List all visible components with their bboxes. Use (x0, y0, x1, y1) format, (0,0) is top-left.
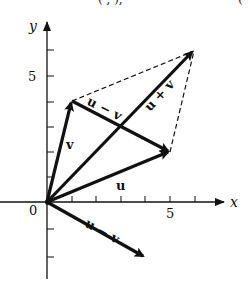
label-u: u (116, 178, 125, 193)
origin-label: 0 (29, 203, 37, 218)
x-axis-label: x (230, 194, 238, 210)
x-ticks (72, 196, 195, 202)
label-u-minus-v: u − v (83, 216, 123, 247)
axes: x y 0 5 5 (0, 18, 238, 279)
y-axis-label: y (28, 18, 38, 34)
dashed-edge-u-to-sum (170, 51, 194, 152)
vector-diagram: x y 0 5 5 u v u + v u − v u − v (0, 0, 250, 308)
label-u-plus-v: u + v (141, 76, 177, 114)
vector-u (47, 152, 168, 202)
y-ticks (47, 50, 54, 257)
y-tick-label-5: 5 (28, 69, 36, 84)
x-tick-label-5: 5 (166, 206, 174, 221)
label-v: v (65, 137, 74, 152)
origin-point (45, 199, 51, 205)
